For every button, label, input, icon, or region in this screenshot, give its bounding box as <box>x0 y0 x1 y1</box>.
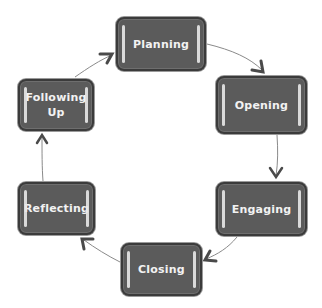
cycle-diagram: Planning Opening Engaging Closing Reflec… <box>0 0 322 308</box>
node-label: Engaging <box>232 202 292 217</box>
node-label: Opening <box>235 98 288 113</box>
node-label: Following Up <box>25 90 86 120</box>
node-engaging: Engaging <box>216 182 307 236</box>
highlight-bar-left <box>127 251 130 288</box>
node-label: Planning <box>133 37 189 52</box>
node-reflecting: Reflecting <box>18 182 95 235</box>
node-planning: Planning <box>116 17 206 71</box>
arrow-closing-to-reflecting <box>82 239 120 262</box>
arrow-opening-to-engaging <box>270 135 282 177</box>
highlight-bar-left <box>222 190 225 228</box>
arrow-engaging-to-closing <box>205 237 237 261</box>
highlight-bar-right <box>85 87 88 123</box>
highlight-bar-right <box>193 251 196 288</box>
node-opening: Opening <box>216 76 307 134</box>
node-following-up: Following Up <box>18 79 94 131</box>
node-label: Closing <box>138 262 185 277</box>
highlight-bar-right <box>298 190 301 228</box>
highlight-bar-left <box>24 87 27 123</box>
arrow-reflecting-to-following-up <box>37 135 47 181</box>
arrow-following-up-to-planning <box>75 54 112 77</box>
highlight-bar-left <box>222 84 225 126</box>
highlight-bar-left <box>24 190 27 227</box>
highlight-bar-right <box>298 84 301 126</box>
node-closing: Closing <box>121 243 202 296</box>
highlight-bar-left <box>122 25 125 63</box>
highlight-bar-right <box>197 25 200 63</box>
arrow-planning-to-opening <box>207 44 263 72</box>
highlight-bar-right <box>86 190 89 227</box>
node-label: Reflecting <box>24 201 89 216</box>
